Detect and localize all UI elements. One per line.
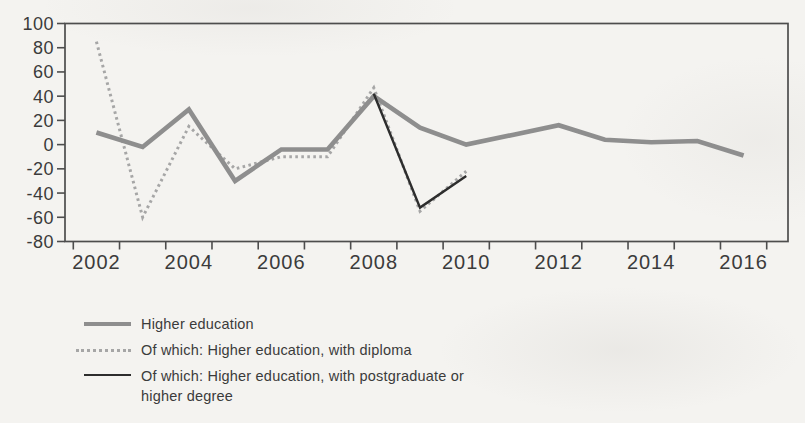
y-tick-label: -60 [26, 208, 54, 228]
plot-frame [65, 24, 788, 242]
x-tick-label: 2010 [442, 251, 491, 273]
x-tick-label: 2004 [165, 251, 214, 273]
x-tick-label: 2008 [350, 251, 399, 273]
y-tick-label: -20 [26, 159, 54, 179]
x-tick-label: 2012 [534, 251, 583, 273]
x-tick-label: 2002 [72, 251, 121, 273]
y-tick-label: 80 [33, 38, 54, 58]
series-line-0 [96, 96, 743, 181]
chart-legend: Higher education Of which: Higher educat… [84, 314, 493, 406]
legend-label-diploma: Of which: Higher education, with diploma [141, 340, 412, 360]
y-tick-label: -40 [26, 184, 54, 204]
scanned-chart-page: 100806040200-20-40-60-802002200420062008… [0, 0, 805, 423]
y-tick-label: 20 [33, 111, 54, 131]
legend-swatch-higher-education [84, 322, 131, 326]
y-tick-label: 0 [43, 135, 54, 155]
legend-swatch-diploma [76, 349, 131, 352]
y-tick-label: -80 [26, 232, 54, 252]
legend-item-higher-education: Higher education [84, 314, 493, 334]
x-tick-label: 2006 [257, 251, 306, 273]
legend-swatch-postgraduate [84, 374, 131, 376]
legend-label-postgraduate: Of which: Higher education, with postgra… [141, 366, 493, 406]
y-tick-label: 100 [22, 14, 54, 34]
y-tick-label: 60 [33, 62, 54, 82]
series-line-1 [96, 42, 466, 218]
legend-label-higher-education: Higher education [141, 314, 254, 334]
y-tick-label: 40 [33, 87, 54, 107]
series-line-2 [374, 94, 466, 208]
x-tick-label: 2014 [627, 251, 676, 273]
legend-item-postgraduate: Of which: Higher education, with postgra… [84, 366, 493, 406]
legend-item-diploma: Of which: Higher education, with diploma [84, 340, 493, 360]
x-tick-label: 2016 [719, 251, 768, 273]
line-chart: 100806040200-20-40-60-802002200420062008… [0, 0, 805, 300]
